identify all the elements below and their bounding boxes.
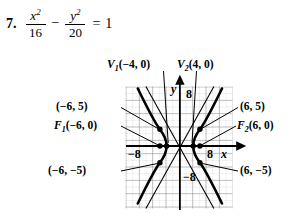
focus-1-coords: (−6, 0) [66,119,97,131]
point-label-neg6-neg5: (−6, −5) [48,164,86,176]
focus-2-label: F2(6, 0) [237,119,274,134]
vertex-2-coords: (4, 0) [189,58,214,70]
vertex-2-label: V2(4, 0) [177,58,214,73]
fraction-y-denominator: 20 [66,25,85,39]
problem-equation: 7. x2 16 − y2 20 = 1 [6,8,112,39]
point-focus-1 [157,143,162,148]
x-tick-negative-8: −8 [128,147,141,162]
point-label-neg6-5: (−6, 5) [56,100,87,112]
y-axis-label: y [171,82,176,97]
point-neg6-neg5 [157,160,162,165]
point-6-neg5 [197,160,202,165]
point-focus-2 [197,143,202,148]
focus-1-label: F1(−6, 0) [54,119,97,134]
equals-sign: = [92,16,100,32]
right-hand-side: 1 [105,16,112,32]
focus-2-symbol: F [237,119,245,131]
figure-container: 7. x2 16 − y2 20 = 1 [0,0,301,224]
point-neg6-5 [157,127,162,132]
focus-2-coords: (6, 0) [249,119,274,131]
point-label-6-5: (6, 5) [240,100,265,112]
fraction-y-term: y2 20 [65,8,85,39]
vertex-1-label: V1(−4, 0) [107,58,150,73]
focus-1-symbol: F [54,119,62,131]
point-label-6-neg5: (6, −5) [240,164,271,176]
hyperbola-graph: 8 −8 −8 8 y x V1(−4, 0) V2(4, 0) F1(−6, … [0,55,301,224]
point-vertex-1 [164,143,169,148]
graph-canvas [0,55,301,224]
fraction-y-numerator: y2 [67,8,83,24]
vertex-1-symbol: V [107,58,115,70]
point-6-5 [197,127,202,132]
vertex-2-symbol: V [177,58,185,70]
y-tick-positive-8: 8 [186,87,192,102]
fraction-x-numerator: x2 [27,8,43,24]
x-axis-label: x [221,147,227,162]
problem-number: 7. [6,16,17,32]
exponent-y: 2 [76,7,81,17]
point-vertex-2 [191,143,196,148]
y-tick-negative-8: −8 [183,170,196,185]
vertex-1-coords: (−4, 0) [119,58,150,70]
fraction-x-denominator: 16 [26,25,45,39]
fraction-x-term: x2 16 [26,8,46,39]
exponent-x: 2 [36,7,41,17]
x-tick-positive-8: 8 [207,147,213,162]
minus-operator: − [52,15,60,33]
